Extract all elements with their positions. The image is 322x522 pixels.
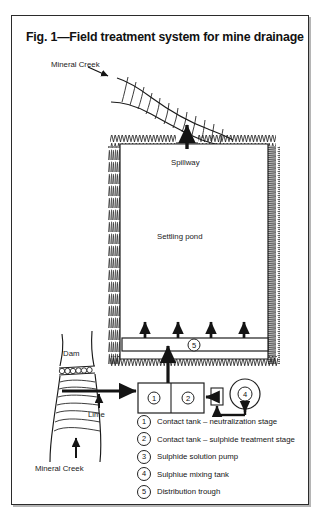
legend-item-5: 5 Distribution trough (137, 483, 295, 501)
pond-water (120, 144, 268, 359)
svg-text:4: 4 (243, 390, 247, 399)
legend-text: Contact tank – neutralization stage (157, 417, 277, 426)
dam-structure (59, 366, 95, 375)
svg-text:1: 1 (152, 394, 156, 403)
label-dam: Dam (63, 349, 79, 358)
label-lime: Lime (88, 410, 105, 419)
legend-item-1: 1 Contact tank – neutralization stage (137, 413, 295, 431)
embankment-left (108, 146, 120, 364)
label-mineral-creek-top: Mineral Creek (51, 60, 100, 69)
legend: 1 Contact tank – neutralization stage 2 … (137, 413, 295, 501)
embankment-right (268, 146, 280, 364)
legend-number: 4 (137, 467, 151, 481)
legend-text: Sulphiue mixing tank (157, 470, 229, 479)
label-mineral-creek-bottom: Mineral Creek (35, 464, 84, 473)
creek-upper (88, 67, 233, 146)
legend-text: Contact tank – sulphide treatment stage (157, 435, 295, 444)
svg-text:5: 5 (192, 341, 196, 350)
legend-item-4: 4 Sulphiue mixing tank (137, 466, 295, 484)
legend-item-2: 2 Contact tank – sulphide treatment stag… (137, 431, 295, 449)
legend-number: 1 (137, 415, 151, 429)
figure-frame: Fig. 1—Field treatment system for mine d… (11, 15, 309, 505)
legend-number: 2 (137, 432, 151, 446)
label-settling-pond: Settling pond (157, 232, 203, 241)
svg-text:2: 2 (186, 394, 190, 403)
legend-number: 5 (137, 485, 151, 499)
legend-text: Distribution trough (157, 487, 220, 496)
svg-text:3: 3 (215, 393, 219, 402)
legend-item-3: 3 Sulphide solution pump (137, 448, 295, 466)
legend-number: 3 (137, 450, 151, 464)
label-spillway: Spillway (171, 158, 200, 167)
legend-text: Sulphide solution pump (157, 452, 238, 461)
